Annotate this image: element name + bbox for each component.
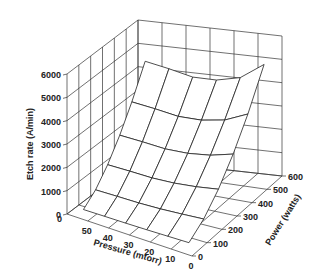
x-tick-label: 0 bbox=[188, 261, 193, 271]
grid-line bbox=[63, 97, 67, 98]
grid-line bbox=[63, 214, 67, 215]
surface-plot: 0100020003000400050006000504030201000010… bbox=[0, 0, 318, 276]
grid-line bbox=[63, 167, 67, 168]
y-tick-label: 200 bbox=[228, 225, 243, 235]
z-tick-label: 6000 bbox=[41, 70, 61, 80]
z-tick-label: 4000 bbox=[41, 117, 61, 127]
grid-line bbox=[63, 191, 67, 192]
z-tick-label: 1000 bbox=[41, 187, 61, 197]
etch-rate-surface bbox=[83, 61, 264, 242]
x-tick-label: 50 bbox=[82, 226, 92, 236]
surface-plot-svg: 0100020003000400050006000504030201000010… bbox=[0, 0, 318, 276]
y-tick-label: 400 bbox=[258, 199, 273, 209]
z-tick-label: 2000 bbox=[41, 163, 61, 173]
x-tick-label: 0 bbox=[57, 214, 62, 224]
y-tick-label: 300 bbox=[243, 212, 258, 222]
x-tick-label: 10 bbox=[165, 254, 175, 264]
grid-line bbox=[63, 74, 67, 75]
y-tick-label: 0 bbox=[198, 252, 203, 262]
grid-line bbox=[63, 144, 67, 145]
z-tick-label: 5000 bbox=[41, 93, 61, 103]
y-tick-label: 500 bbox=[273, 185, 288, 195]
z-tick-label: 3000 bbox=[41, 140, 61, 150]
y-tick-label: 600 bbox=[288, 172, 303, 182]
z-axis-label: Etch rate (A/min) bbox=[25, 108, 35, 180]
y-tick-label: 100 bbox=[213, 239, 228, 249]
grid-line bbox=[63, 121, 67, 122]
